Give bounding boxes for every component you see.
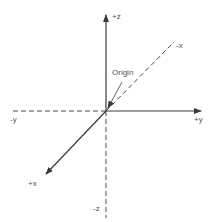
pos-x-axis [46, 111, 106, 174]
label-neg-x: -x [176, 42, 183, 50]
label-pos-y: +y [194, 116, 203, 124]
label-pos-x: +x [28, 180, 37, 188]
coordinate-axes-diagram: +z -z +y -y +x -x Origin [0, 0, 213, 222]
label-origin: Origin [112, 69, 133, 77]
label-neg-y: -y [10, 116, 17, 124]
axes-drawing [0, 0, 213, 222]
label-pos-z: +z [112, 13, 121, 21]
origin-leader-line [108, 82, 122, 108]
label-neg-z: -z [93, 205, 100, 213]
